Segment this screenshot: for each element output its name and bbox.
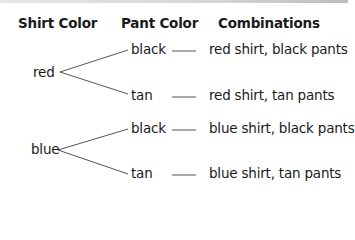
- combo-red-tan: red shirt, tan pants: [209, 87, 334, 103]
- combo-blue-tan: blue shirt, tan pants: [209, 165, 341, 181]
- pant-blue-black: black: [131, 120, 166, 136]
- blue-branch-lines: [58, 129, 128, 174]
- shirt-red: red: [33, 64, 55, 80]
- pant-red-black: black: [131, 41, 166, 57]
- red-branch-lines: [60, 50, 128, 94]
- combo-red-black: red shirt, black pants: [209, 41, 348, 57]
- pant-red-tan: tan: [131, 87, 153, 103]
- shirt-blue: blue: [31, 141, 59, 157]
- pant-blue-tan: tan: [131, 165, 153, 181]
- combo-blue-black: blue shirt, black pants: [209, 120, 355, 136]
